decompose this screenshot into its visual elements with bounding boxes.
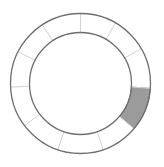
segment-divider <box>11 86 30 87</box>
segment-divider <box>58 132 64 150</box>
outer-ring <box>11 14 151 154</box>
ring-svg <box>0 0 164 167</box>
segment-divider <box>18 52 35 61</box>
inner-ring <box>30 33 132 135</box>
segment-divider <box>25 114 40 125</box>
segment-divider <box>106 23 116 39</box>
segment-divider <box>42 25 52 41</box>
segmented-ring-diagram <box>0 0 164 167</box>
segment-divider <box>97 132 103 150</box>
segment-divider <box>125 49 141 59</box>
